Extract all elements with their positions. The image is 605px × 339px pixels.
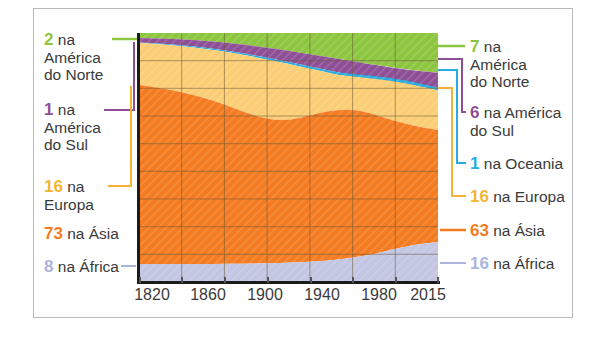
leader-lines-right (0, 0, 605, 339)
infographic-figure: 2 na América do Norte 1 na América do Su… (0, 0, 605, 339)
